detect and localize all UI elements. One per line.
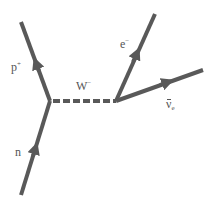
antineutrino-label: νe: [166, 98, 175, 112]
neutron-arrow-icon: [33, 148, 36, 156]
feynman-diagram: [0, 0, 217, 211]
proton-label: p+: [11, 61, 21, 73]
electron-arrow-icon: [133, 53, 137, 62]
neutron-label: n: [15, 146, 21, 158]
proton-arrow-icon: [36, 63, 39, 71]
w-boson-label: W−: [76, 80, 91, 92]
proton-line: [21, 22, 50, 101]
antineutrino-arrow-icon: [160, 82, 168, 85]
electron-label: e−: [120, 38, 129, 50]
